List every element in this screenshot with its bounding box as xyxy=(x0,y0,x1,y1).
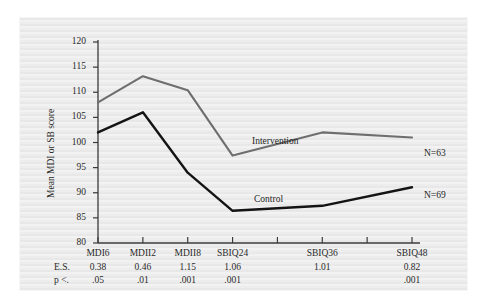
y-tick-label: 85 xyxy=(60,212,86,222)
stat-row-value: 1.06 xyxy=(224,262,241,272)
y-tick-label: 90 xyxy=(60,187,86,197)
y-tick-label: 80 xyxy=(60,237,86,247)
x-category-label: MDI6 xyxy=(86,248,109,258)
x-category-label: SBIQ24 xyxy=(217,248,248,258)
series-label-control: Control xyxy=(254,194,283,204)
series-n-intervention: N=63 xyxy=(424,148,446,158)
x-category-label: MDII8 xyxy=(175,248,201,258)
stat-row-value: .001 xyxy=(224,275,241,285)
y-tick-label: 105 xyxy=(60,111,86,121)
stat-row-label: E.S. xyxy=(54,262,70,272)
stat-row-value: 0.46 xyxy=(135,262,152,272)
stat-row-value: .001 xyxy=(404,275,421,285)
x-category-label: SBIQ48 xyxy=(396,248,427,258)
x-category-label: MDII2 xyxy=(130,248,156,258)
chart-panel: Mean MDI or SB score 8085909510010511011… xyxy=(20,18,467,290)
series-label-intervention: Intervention xyxy=(252,136,298,146)
plot-area: Mean MDI or SB score 8085909510010511011… xyxy=(20,18,467,290)
stat-row-label: p <. xyxy=(54,275,69,285)
stat-row-value: 0.38 xyxy=(90,262,107,272)
stat-row-value: .001 xyxy=(179,275,196,285)
y-tick-marks xyxy=(93,42,98,243)
y-tick-label: 120 xyxy=(60,36,86,46)
y-tick-label: 100 xyxy=(60,137,86,147)
y-tick-label: 110 xyxy=(60,86,86,96)
stat-row-value: 0.82 xyxy=(404,262,421,272)
y-tick-label: 115 xyxy=(60,61,86,71)
y-tick-label: 95 xyxy=(60,162,86,172)
stat-row-value: 1.01 xyxy=(314,262,331,272)
stat-row-value: 1.15 xyxy=(179,262,196,272)
x-tick-marks xyxy=(98,237,412,243)
y-axis-title: Mean MDI or SB score xyxy=(46,109,56,198)
stat-row-value: .05 xyxy=(92,275,104,285)
x-category-label: SBIQ36 xyxy=(307,248,338,258)
stat-row-value: .01 xyxy=(137,275,149,285)
series-n-control: N=69 xyxy=(424,190,446,200)
chart-screenshot: Mean MDI or SB score 8085909510010511011… xyxy=(0,0,491,306)
